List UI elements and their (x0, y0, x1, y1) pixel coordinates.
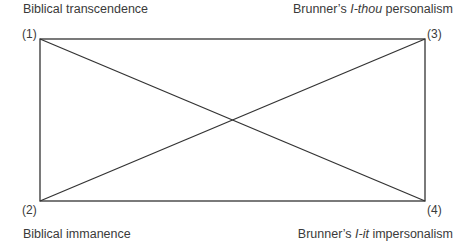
label-italic-term: I-it (355, 227, 369, 241)
label-biblical-immanence: Biblical immanence (23, 228, 131, 241)
label-prefix: Brunner’s (298, 227, 355, 241)
label-suffix: impersonalism (369, 227, 453, 241)
square-of-opposition-diagram (0, 0, 464, 248)
label-brunner-i-it: Brunner’s I-it impersonalism (298, 228, 453, 241)
